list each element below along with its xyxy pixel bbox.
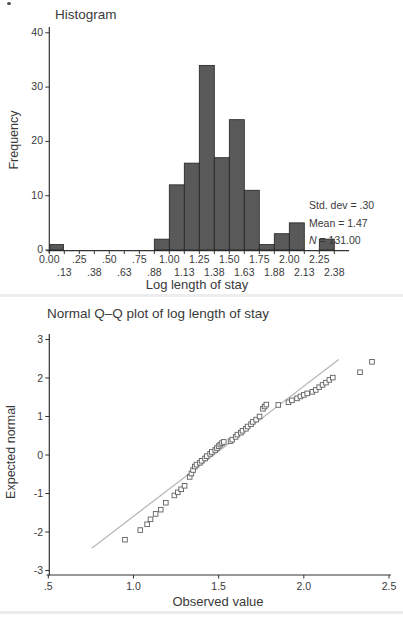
histogram-stats: Std. dev = .30 Mean = 1.47 N = 131.00 xyxy=(309,197,374,250)
svg-text:1.75: 1.75 xyxy=(249,253,270,265)
svg-text:1.50: 1.50 xyxy=(219,253,240,265)
svg-text:1.88: 1.88 xyxy=(264,266,285,278)
svg-text:0.00: 0.00 xyxy=(39,253,60,265)
svg-text:20: 20 xyxy=(31,134,43,146)
qq-x-axis-label: Observed value xyxy=(172,594,263,609)
svg-text:.38: .38 xyxy=(87,266,102,278)
svg-text:2.5: 2.5 xyxy=(382,580,397,592)
svg-text:-2: -2 xyxy=(34,526,43,538)
svg-text:1: 1 xyxy=(37,410,43,422)
histogram-x-axis-label: Log length of stay xyxy=(146,277,249,292)
page: Histogram Frequency 0102030400.00.13.25.… xyxy=(0,0,403,618)
svg-text:2.0: 2.0 xyxy=(297,580,312,592)
svg-text:40: 40 xyxy=(31,26,43,38)
svg-text:10: 10 xyxy=(31,189,43,201)
svg-text:.75: .75 xyxy=(132,253,147,265)
histogram-plot: 0102030400.00.13.25.38.50.63.75.881.001.… xyxy=(0,0,403,298)
svg-text:-3: -3 xyxy=(34,564,43,576)
svg-text:2.00: 2.00 xyxy=(279,253,300,265)
stat-n: N = 131.00 xyxy=(309,232,374,250)
svg-text:3: 3 xyxy=(37,333,43,345)
stat-mean: Mean = 1.47 xyxy=(309,215,374,233)
svg-text:.25: .25 xyxy=(72,253,87,265)
qq-scatter-plot: -3-2-10123.51.01.52.02.5 xyxy=(0,298,403,618)
svg-text:2: 2 xyxy=(37,372,43,384)
svg-text:2.25: 2.25 xyxy=(309,253,330,265)
stat-std-dev: Std. dev = .30 xyxy=(309,197,374,215)
svg-text:2.13: 2.13 xyxy=(294,266,315,278)
svg-text:.63: .63 xyxy=(117,266,132,278)
svg-text:.50: .50 xyxy=(102,253,117,265)
svg-text:-1: -1 xyxy=(34,487,43,499)
svg-text:1.0: 1.0 xyxy=(126,580,141,592)
svg-text:0: 0 xyxy=(37,449,43,461)
svg-text:.5: .5 xyxy=(44,580,53,592)
svg-text:.13: .13 xyxy=(57,266,72,278)
svg-text:1.5: 1.5 xyxy=(211,580,226,592)
svg-text:1.00: 1.00 xyxy=(159,253,180,265)
svg-text:2.38: 2.38 xyxy=(324,266,345,278)
svg-text:30: 30 xyxy=(31,80,43,92)
svg-text:1.25: 1.25 xyxy=(189,253,210,265)
